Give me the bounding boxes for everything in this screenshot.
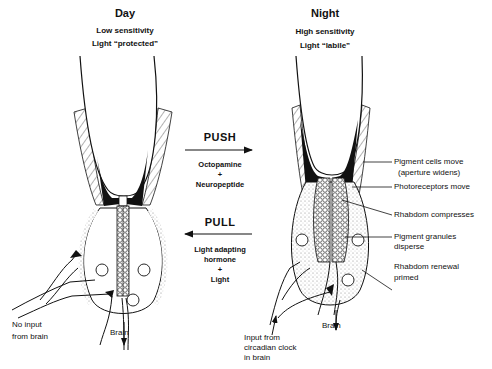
pull-line3: Light	[180, 275, 260, 285]
day-title: Day	[100, 8, 150, 18]
day-ommatidium	[12, 56, 172, 350]
night-ommatidium	[270, 56, 392, 335]
annotation-pigment-cells-sub: (aperture widens)	[398, 168, 460, 178]
day-line1: Low sensitivity	[70, 26, 180, 36]
push-line1: Octopamine	[180, 160, 260, 170]
night-input-line3: in brain	[244, 353, 270, 363]
day-brain-label: Brain	[110, 328, 129, 338]
push-plus: +	[180, 170, 260, 180]
annotation-pigment-cells: Pigment cells move	[394, 157, 463, 167]
annotation-photoreceptors: Photoreceptors move	[394, 182, 470, 192]
annotation-rhabdom-renewal-sub: primed	[394, 273, 418, 283]
day-no-input-line2: from brain	[12, 332, 48, 342]
push-line2: Neuropeptide	[180, 180, 260, 190]
push-title: PUSH	[190, 132, 250, 142]
night-brain-label: Brain	[322, 321, 341, 331]
night-input-line2: circadian clock	[244, 343, 296, 353]
pull-title: PULL	[190, 217, 250, 227]
night-input-line1: Input from	[244, 333, 280, 343]
night-line2: Light “labile”	[270, 41, 380, 51]
annotation-pigment-granules: Pigment granules	[394, 232, 456, 242]
day-no-input-line1: No input	[12, 320, 42, 330]
day-line2: Light “protected”	[70, 39, 180, 49]
annotation-pigment-granules-sub: disperse	[394, 242, 424, 252]
pull-line2: hormone	[180, 255, 260, 265]
night-title: Night	[300, 8, 350, 18]
pull-line1: Light adapting	[180, 245, 260, 255]
pull-plus: +	[180, 265, 260, 275]
annotation-rhabdom-renewal: Rhabdom renewal	[394, 262, 459, 272]
annotation-rhabdom-compresses: Rhabdom compresses	[394, 210, 474, 220]
night-line1: High sensitivity	[270, 27, 380, 37]
